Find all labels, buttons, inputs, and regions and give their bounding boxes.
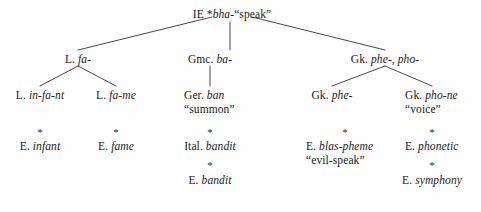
node-greek-phe: Gk. phe- xyxy=(311,89,352,103)
node-english-bandit: E. bandit xyxy=(188,174,231,188)
derivation-marker-bandit-eng: * xyxy=(207,160,213,171)
node-latin-fame-stem-text: L. fa-me xyxy=(96,89,136,101)
node-german-ban-gloss: “summon” xyxy=(184,103,235,117)
node-latin-fame-stem: L. fa-me xyxy=(96,89,136,103)
node-english-symphony: E. symphony xyxy=(402,174,462,188)
etymon-italic: infant xyxy=(33,140,60,152)
node-english-blaspheme-italic: blas-pheme xyxy=(319,140,373,152)
node-latin-infant-stem-text: L. in-fa-nt xyxy=(16,89,64,101)
derivation-marker-symphony: * xyxy=(429,160,435,171)
node-germanic-ba-text: Gmc. ba- xyxy=(188,53,232,65)
edge-latin-to-infant xyxy=(40,66,78,86)
node-english-infant: E. infant xyxy=(20,140,61,154)
node-english-phonetic-text: E. xyxy=(405,140,418,152)
node-greek-phone-text: Gk. xyxy=(405,89,425,101)
node-english-bandit-text: E. bandit xyxy=(188,174,231,186)
node-greek-phone: Gk. pho-ne “voice” xyxy=(405,89,458,116)
edge-root-to-greek xyxy=(252,17,385,50)
node-italian-bandit-text: Ital. bandit xyxy=(184,140,236,152)
node-english-infant-text: E. infant xyxy=(20,140,61,152)
etymon-italic: symphony xyxy=(415,174,462,186)
node-german-ban-text: Ger. xyxy=(184,89,207,101)
node-german-ban: Ger. ban “summon” xyxy=(184,89,235,116)
node-greek-phe-pho: Gk. phe-, pho- xyxy=(351,53,419,67)
etymon-italic: bandit xyxy=(202,174,232,186)
node-english-phonetic-italic: phonetic xyxy=(418,140,458,152)
node-english-fame-text: E. fame xyxy=(98,140,134,152)
node-root-text: IE *bha-“speak” xyxy=(193,8,271,20)
node-greek-phe-text: Gk. phe- xyxy=(311,89,352,101)
derivation-marker-blaspheme: * xyxy=(342,127,348,138)
node-greek-phone-italic: pho-ne xyxy=(425,89,458,101)
node-english-blaspheme-gloss: “evil-speak” xyxy=(306,154,373,168)
etymon-italic: phe-, pho- xyxy=(371,53,419,65)
node-english-phonetic: E. phonetic xyxy=(405,140,458,154)
node-latin-infant-stem: L. in-fa-nt xyxy=(16,89,64,103)
node-latin-fa-text: L. fa- xyxy=(65,53,91,65)
node-latin-fa: L. fa- xyxy=(65,53,91,67)
etymon-italic: ba- xyxy=(216,53,232,65)
derivation-marker-phonetic: * xyxy=(429,127,435,138)
edge-latin-to-fame xyxy=(78,66,116,86)
node-english-fame: E. fame xyxy=(98,140,134,154)
etymology-tree-figure: IE *bha-“speak” L. fa- Gmc. ba- Gk. phe-… xyxy=(0,0,481,212)
node-italian-bandit: Ital. bandit xyxy=(184,140,236,154)
node-greek-phone-gloss: “voice” xyxy=(405,103,458,117)
node-germanic-ba: Gmc. ba- xyxy=(188,53,232,67)
node-german-ban-italic: ban xyxy=(207,89,225,101)
derivation-marker-fame: * xyxy=(113,127,119,138)
edge-root-to-latin xyxy=(78,17,212,50)
etymon-italic: bandit xyxy=(206,140,236,152)
edge-greek-to-phe xyxy=(332,66,385,86)
etymon-italic: fa- xyxy=(78,53,91,65)
etymon-italic: bha- xyxy=(213,8,234,20)
derivation-marker-bandit-ital: * xyxy=(207,127,213,138)
node-english-blaspheme: E. blas-pheme “evil-speak” xyxy=(306,140,373,167)
node-greek-phe-pho-text: Gk. phe-, pho- xyxy=(351,53,419,65)
edge-greek-to-phone xyxy=(385,66,432,86)
etymon-italic: in-fa-nt xyxy=(29,89,64,101)
node-english-symphony-text: E. symphony xyxy=(402,174,462,186)
etymon-italic: fame xyxy=(111,140,134,152)
node-root-ie: IE *bha-“speak” xyxy=(193,8,271,22)
node-english-blaspheme-text: E. xyxy=(306,140,319,152)
etymon-italic: phe- xyxy=(332,89,353,101)
etymon-italic: fa-me xyxy=(109,89,136,101)
derivation-marker-infant: * xyxy=(37,127,43,138)
